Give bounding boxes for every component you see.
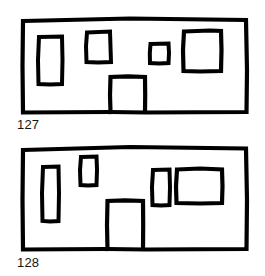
window-small-center-127 — [150, 44, 169, 64]
window-wide-right-128 — [176, 169, 223, 204]
building-facade-127-drawing — [0, 0, 265, 136]
figure-caption-127: 127 — [17, 118, 39, 131]
facade-outline-128 — [23, 147, 248, 250]
figure-caption-128: 128 — [17, 256, 39, 269]
window-narrow-right-128 — [152, 170, 170, 206]
window-tall-left-127 — [38, 37, 63, 85]
window-upper-left-128 — [80, 157, 97, 186]
door-center-127 — [110, 76, 145, 112]
figure-127: 127 — [0, 0, 265, 136]
window-tall-narrow-left-128 — [42, 167, 59, 222]
figure-page: 127 128 — [0, 0, 265, 276]
facade-127-svg — [0, 0, 265, 136]
building-facade-128-drawing — [0, 136, 265, 276]
window-upper-mid-left-127 — [86, 32, 111, 63]
door-center-128 — [107, 200, 143, 249]
window-large-right-127 — [183, 31, 222, 72]
figure-128: 128 — [0, 136, 265, 276]
facade-128-svg — [0, 136, 265, 276]
